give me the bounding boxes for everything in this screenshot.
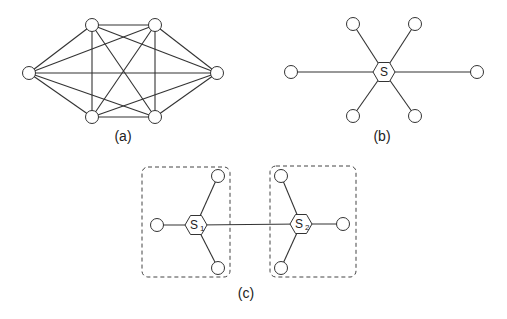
panel-c-two-switches: S1S2 (c): [142, 166, 356, 301]
panel-b-star: S (b): [285, 18, 484, 145]
switch-s: S: [373, 63, 395, 82]
switch-s1: S1: [185, 216, 207, 235]
s1-end-node: [212, 170, 225, 183]
switch-label: S: [295, 217, 303, 231]
mesh-edge: [29, 73, 92, 117]
caption-c: (c): [238, 285, 254, 301]
switch-subscript: 1: [200, 224, 205, 233]
switch-end-nodes: [151, 170, 350, 275]
mesh-edges: [29, 25, 217, 117]
panel-a-full-mesh: (a): [23, 19, 224, 145]
s1-end-node: [151, 219, 164, 232]
end-node: [285, 66, 298, 79]
mesh-node: [211, 67, 224, 80]
switch-subscript: 2: [305, 223, 310, 232]
end-node: [347, 110, 360, 123]
mesh-edge: [155, 25, 217, 73]
s2-end-node: [337, 218, 350, 231]
end-node: [347, 18, 360, 31]
inter-switch-link: [196, 224, 301, 225]
s2-end-node: [275, 170, 288, 183]
dashed-group-boxes: [142, 166, 356, 277]
switch-label: S: [380, 65, 388, 79]
mesh-node: [149, 19, 162, 32]
s2-end-node: [275, 262, 288, 275]
switch-s2: S2: [290, 215, 312, 234]
mesh-node: [149, 111, 162, 124]
mesh-node: [86, 19, 99, 32]
switch-label: S: [190, 218, 198, 232]
switch-s-hexagon: S: [373, 63, 395, 82]
mesh-node: [86, 111, 99, 124]
mesh-edge: [155, 73, 217, 117]
end-node: [409, 110, 422, 123]
network-topology-figure: (a) S (b) S1S2 (c): [0, 0, 507, 319]
s1-end-node: [212, 262, 225, 275]
end-node: [471, 66, 484, 79]
mesh-node: [23, 67, 36, 80]
caption-b: (b): [373, 128, 390, 144]
mesh-edge: [29, 25, 92, 73]
switch-edges: [157, 176, 343, 268]
caption-a: (a): [114, 128, 131, 144]
end-node: [409, 18, 422, 31]
